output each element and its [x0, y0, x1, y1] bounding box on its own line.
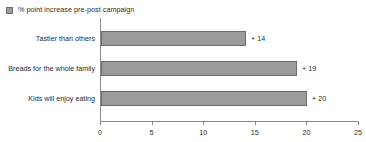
x-axis-tick	[100, 121, 101, 125]
bar-segment	[101, 61, 297, 76]
bar-value-label: + 20	[312, 94, 326, 103]
legend-label: % point increase pre-post campaign	[18, 6, 134, 14]
chart-legend: % point increase pre-post campaign	[6, 4, 134, 16]
bar-segment	[101, 91, 307, 106]
bar-row: Tastier than others + 14	[0, 31, 366, 47]
x-axis-tick	[255, 121, 256, 125]
bar-segment	[101, 31, 246, 46]
x-axis-tick	[306, 121, 307, 125]
legend-swatch-icon	[6, 7, 13, 14]
bar-value-label: + 19	[302, 64, 316, 73]
x-axis-tick-label: 20	[302, 128, 310, 137]
x-axis-tick-label: 5	[150, 128, 154, 137]
x-axis-tick-label: 10	[199, 128, 207, 137]
x-axis-tick	[203, 121, 204, 125]
category-label: Breads for the whole family	[8, 64, 95, 73]
category-label: Kids will enjoy eating	[28, 94, 95, 103]
x-axis-tick	[152, 121, 153, 125]
x-axis-tick-label: 15	[251, 128, 259, 137]
x-axis-line	[100, 121, 358, 122]
bar-row: Breads for the whole family + 19	[0, 61, 366, 77]
x-axis-tick	[358, 121, 359, 125]
category-label: Tastier than others	[36, 34, 95, 43]
x-axis-tick-label: 0	[98, 128, 102, 137]
bar-chart: % point increase pre-post campaign 0 5 1…	[0, 0, 366, 142]
x-axis-tick-label: 25	[354, 128, 362, 137]
bar-value-label: + 14	[251, 34, 265, 43]
bar-row: Kids will enjoy eating + 20	[0, 91, 366, 107]
plot-area: 0 5 10 15 20 25 Tastier than others + 14…	[0, 18, 366, 122]
